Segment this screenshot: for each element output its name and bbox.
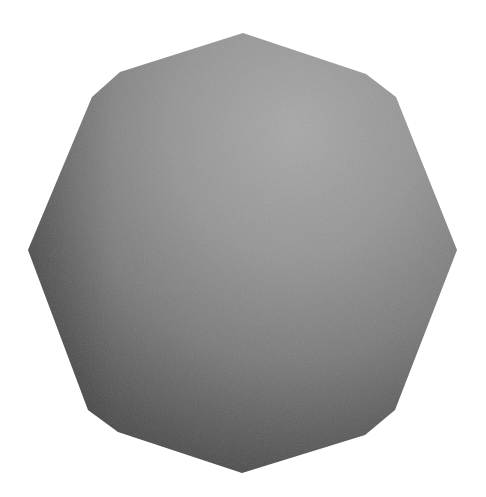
shaded-polygon-sphere-image [0, 0, 486, 497]
sphere-grain-texture [28, 33, 457, 473]
